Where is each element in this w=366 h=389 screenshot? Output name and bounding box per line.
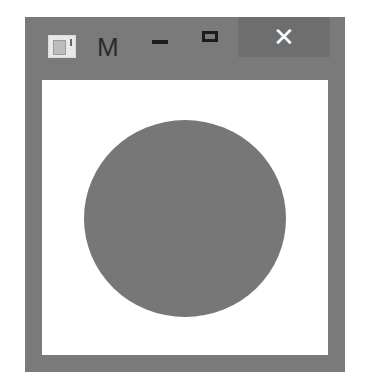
app-window: M ✕ (25, 17, 345, 372)
minimize-icon (152, 40, 168, 44)
circle-shape (84, 120, 286, 317)
close-icon: ✕ (273, 22, 295, 53)
maximize-icon (202, 31, 218, 42)
window-title: M (97, 33, 119, 61)
maximize-button[interactable] (190, 17, 230, 61)
close-button[interactable]: ✕ (238, 17, 330, 57)
app-icon-pane (53, 40, 66, 55)
title-bar[interactable]: M ✕ (25, 17, 345, 77)
app-icon-tab (70, 39, 72, 46)
minimize-button[interactable] (140, 17, 180, 61)
client-area (42, 80, 328, 355)
app-window-icon[interactable] (48, 35, 76, 58)
